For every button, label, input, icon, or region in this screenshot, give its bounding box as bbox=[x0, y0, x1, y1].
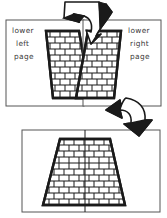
label-lower-right-line2: right bbox=[130, 39, 149, 48]
label-lower-right-line1: lower bbox=[128, 26, 151, 35]
panel-lower-right-page: lower right page bbox=[71, 20, 161, 106]
diagram-canvas: lower left page lower right page bbox=[0, 0, 167, 218]
label-lower-left-line1: lower bbox=[12, 26, 35, 35]
label-lower-left-line3: page bbox=[14, 52, 34, 61]
label-lower-left-line2: left bbox=[16, 39, 29, 48]
panel-assembled-lower-page bbox=[22, 130, 160, 212]
assembly-diagram-svg: lower left page lower right page bbox=[0, 0, 167, 218]
label-lower-right-line3: page bbox=[130, 52, 150, 61]
